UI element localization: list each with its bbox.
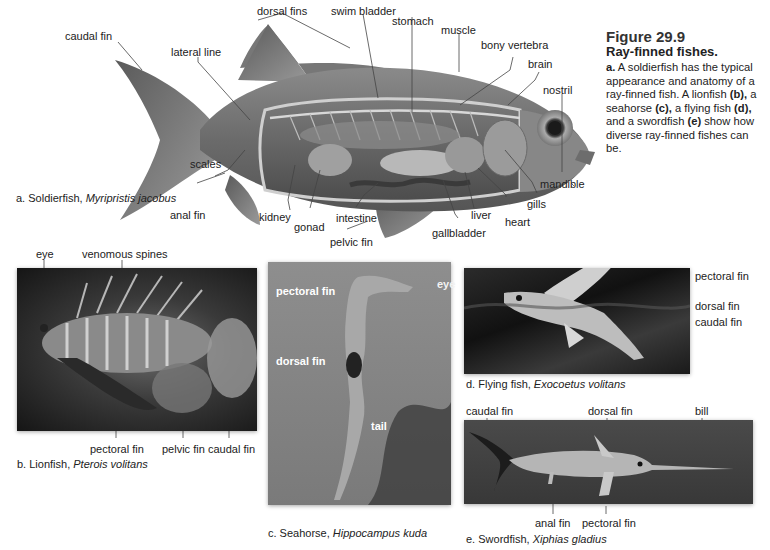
label-gonad: gonad (294, 221, 325, 233)
label-dorsal-fin: dorsal fin (588, 405, 633, 417)
label-bony-vertebra: bony vertebra (481, 39, 548, 51)
figure-title: Ray-finned fishes. (606, 44, 718, 59)
panel-a-caption: a. Soldierfish, Myripristis jacobus (16, 192, 176, 204)
label-anal-fin: anal fin (535, 517, 570, 529)
label-venomous-spines: venomous spines (82, 248, 168, 260)
panel-b-caption: b. Lionfish, Pterois volitans (17, 458, 148, 470)
label-stomach: stomach (392, 15, 434, 27)
label-bill: bill (695, 405, 708, 417)
label-pectoral-fin: pectoral fin (695, 270, 749, 282)
label-gallbladder: gallbladder (432, 227, 486, 239)
label-caudal-fin: caudal fin (466, 405, 513, 417)
swordfish-graphic (464, 420, 753, 504)
label-lateral-line: lateral line (171, 46, 221, 58)
label-nostril: nostril (543, 84, 572, 96)
label-pectoral-fin: pectoral fin (90, 443, 144, 455)
label-swim-bladder: swim bladder (331, 5, 396, 17)
label-eye: eye (437, 278, 455, 290)
label-mandible: mandible (540, 178, 585, 190)
label-dorsal-fin: dorsal fin (695, 300, 740, 312)
panel-c-caption: c. Seahorse, Hippocampus kuda (268, 527, 427, 539)
label-pelvic-fin: pelvic fin (330, 236, 373, 248)
label-dorsal-fin: dorsal fin (276, 355, 326, 367)
label-intestine: intestine (336, 212, 377, 224)
label-pelvic-fin: pelvic fin (162, 443, 205, 455)
label-liver: liver (471, 209, 491, 221)
label-muscle: muscle (441, 24, 476, 36)
flying-fish-graphic (464, 268, 690, 374)
label-caudal-fin: caudal fin (65, 30, 112, 42)
seahorse-graphic (268, 262, 451, 505)
lionfish-graphic (17, 268, 257, 431)
label-pectoral-fin: pectoral fin (276, 285, 335, 297)
label-heart: heart (505, 216, 530, 228)
label-dorsal-fins: dorsal fins (257, 5, 307, 17)
label-eye: eye (36, 248, 54, 260)
lionfish-photo (17, 268, 257, 431)
figure-number: Figure 29.9 (606, 28, 685, 45)
label-pectoral-fin: pectoral fin (582, 517, 636, 529)
panel-e-caption: e. Swordfish, Xiphias gladius (466, 533, 607, 545)
label-caudal-fin: caudal fin (208, 443, 255, 455)
panel-d-caption: d. Flying fish, Exocoetus volitans (466, 378, 626, 390)
species-name: Xiphias gladius (533, 533, 607, 545)
label-caudal-fin: caudal fin (695, 316, 742, 328)
label-brain: brain (528, 58, 552, 70)
label-scales: scales (190, 158, 221, 170)
label-gills: gills (527, 198, 546, 210)
swordfish-photo (464, 420, 753, 504)
label-kidney: kidney (259, 211, 291, 223)
species-name: Exocoetus volitans (534, 378, 626, 390)
species-name: Pterois volitans (73, 458, 148, 470)
label-tail: tail (371, 420, 387, 432)
species-name: Myripristis jacobus (86, 192, 176, 204)
species-name: Hippocampus kuda (333, 527, 427, 539)
figure-description: a. A soldierfish has the typical appeara… (606, 61, 766, 156)
flying-fish-photo (464, 268, 690, 374)
seahorse-photo (268, 262, 451, 505)
label-anal-fin: anal fin (170, 209, 205, 221)
